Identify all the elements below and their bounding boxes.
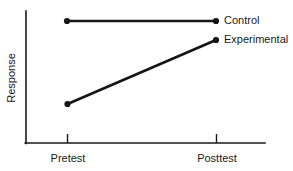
x-tick-label-pretest: Pretest	[51, 152, 86, 164]
series-label-experimental: Experimental	[224, 33, 288, 45]
data-point-experimental-pretest	[64, 101, 70, 107]
series-label-control: Control	[224, 14, 259, 26]
y-axis-title: Response	[5, 53, 17, 103]
chart-figure: Control Experimental Pretest Posttest Re…	[0, 0, 293, 171]
data-point-control-pretest	[64, 18, 70, 24]
x-tick-label-posttest: Posttest	[197, 152, 237, 164]
line-chart-canvas: Control Experimental Pretest Posttest Re…	[0, 0, 293, 171]
data-point-control-posttest	[213, 18, 219, 24]
data-point-experimental-posttest	[213, 37, 219, 43]
